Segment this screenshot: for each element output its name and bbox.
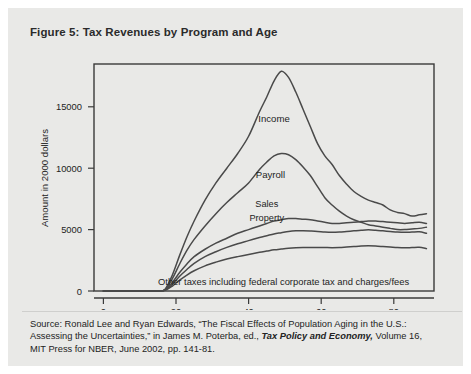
series-label-property: Property (249, 213, 284, 223)
x-tick-0: 0 (101, 298, 106, 310)
source-line-2-part-b: Volume 16, (373, 331, 422, 341)
source-divider (22, 311, 462, 312)
y-tick-label-5000: 5000 (61, 224, 82, 235)
x-tick-60: 60 (316, 298, 326, 310)
tax-revenue-line-chart: 0 5000 10000 15000 Amount in 2000 dollar… (30, 48, 442, 310)
figure-panel: Figure 5: Tax Revenues by Program and Ag… (8, 8, 463, 366)
y-tick-10000: 10000 (56, 163, 94, 174)
y-tick-label-0: 0 (77, 286, 82, 297)
y-tick-label-10000: 10000 (56, 163, 82, 174)
x-tick-40: 40 (243, 298, 253, 310)
x-tick-label-60: 60 (316, 306, 326, 310)
source-line-2-part-a: Assessing the Uncertainties,” in James M… (30, 331, 262, 341)
series-label-income: Income (258, 113, 289, 124)
series-label-sales: Sales (255, 199, 278, 209)
chart-plot-area: 0 5000 10000 15000 Amount in 2000 dollar… (30, 48, 442, 310)
source-line-3: MIT Press for NBER, June 2002, pp. 141-8… (30, 343, 448, 355)
x-tick-80: 80 (389, 298, 399, 310)
y-tick-15000: 15000 (56, 101, 94, 112)
x-axis: 0 20 40 60 80 (94, 298, 434, 310)
x-tick-label-40: 40 (243, 306, 253, 310)
source-line-2: Assessing the Uncertainties,” in James M… (30, 330, 448, 342)
y-tick-0: 0 (77, 286, 94, 297)
other-taxes-annotation: Other taxes including federal corporate … (158, 276, 410, 287)
x-tick-label-0: 0 (101, 306, 106, 310)
y-axis: 0 5000 10000 15000 Amount in 2000 dollar… (39, 101, 94, 296)
y-tick-label-15000: 15000 (56, 101, 82, 112)
source-line-1: Source: Ronald Lee and Ryan Edwards, “Th… (30, 318, 448, 330)
series-label-payroll: Payroll (256, 169, 285, 180)
y-axis-title: Amount in 2000 dollars (39, 129, 50, 227)
x-tick-label-80: 80 (389, 306, 399, 310)
y-tick-5000: 5000 (61, 224, 94, 235)
publication-title: Tax Policy and Economy, (262, 331, 373, 341)
x-tick-label-20: 20 (171, 306, 181, 310)
x-tick-20: 20 (171, 298, 181, 310)
figure-title: Figure 5: Tax Revenues by Program and Ag… (30, 26, 278, 38)
source-note: Source: Ronald Lee and Ryan Edwards, “Th… (30, 318, 448, 355)
